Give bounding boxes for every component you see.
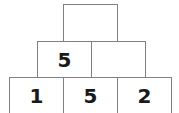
pyramid-cell-value: 5 xyxy=(84,86,98,106)
pyramid-row-top xyxy=(63,4,118,42)
pyramid-cell-bottom-1[interactable]: 1 xyxy=(9,77,64,113)
pyramid-cell-middle-1[interactable]: 5 xyxy=(37,41,92,78)
pyramid-cell-value: 1 xyxy=(30,86,44,106)
pyramid-row-middle: 5 xyxy=(37,41,146,78)
pyramid-cell-bottom-2[interactable]: 5 xyxy=(63,77,118,113)
pyramid-cell-bottom-3[interactable]: 2 xyxy=(117,77,172,113)
pyramid-cell-top-1[interactable] xyxy=(63,4,118,42)
number-pyramid-figure: 5 1 5 2 xyxy=(0,0,179,113)
pyramid-row-bottom: 1 5 2 xyxy=(9,77,172,113)
pyramid-cell-middle-2[interactable] xyxy=(91,41,146,78)
pyramid-cell-value: 5 xyxy=(58,50,72,70)
pyramid-cell-value: 2 xyxy=(138,86,152,106)
